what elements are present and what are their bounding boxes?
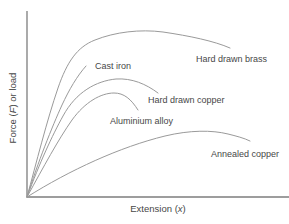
curve-annealed-copper [27, 131, 250, 197]
y-axis-label-text: Force ( [7, 113, 18, 143]
curve-hard-drawn-copper [27, 79, 158, 197]
curve-label-cast-iron: Cast iron [95, 61, 131, 72]
x-axis-label-suffix: ) [183, 203, 186, 214]
y-axis-variable: F [7, 107, 18, 113]
curve-aluminium-alloy [27, 93, 138, 197]
curve-label-hard-drawn-brass: Hard drawn brass [196, 54, 267, 65]
curve-label-aluminium-alloy: Aluminium alloy [110, 116, 173, 127]
y-axis-label-suffix: ) or load [7, 73, 18, 108]
curve-cast-iron [27, 66, 86, 197]
curve-label-annealed-copper: Annealed copper [211, 149, 279, 160]
plot-area [0, 0, 289, 224]
force-extension-graph: Hard drawn brass Cast iron Hard drawn co… [0, 0, 289, 224]
curve-label-hard-drawn-copper: Hard drawn copper [148, 95, 225, 106]
y-axis-label: Force (F) or load [7, 28, 19, 188]
x-axis-label-text: Extension ( [130, 203, 178, 214]
x-axis-label: Extension (x) [27, 203, 289, 214]
